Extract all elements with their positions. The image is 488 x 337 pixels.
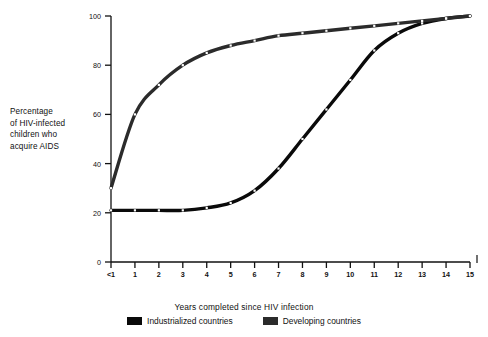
legend-label-developing: Developing countries [283, 316, 361, 326]
chart-page: Percentage of HIV-infected children who … [0, 0, 488, 337]
x-tick-label-10: 10 [340, 270, 360, 279]
x-tick-label-13: 13 [412, 270, 432, 279]
x-tick-marks [111, 262, 470, 268]
legend-swatch-icon-developing [263, 317, 278, 325]
x-tick-label-0: <1 [101, 270, 121, 279]
axis-lines [111, 16, 470, 262]
x-tick-label-7: 7 [269, 270, 289, 279]
x-tick-label-11: 11 [364, 270, 384, 279]
x-tick-label-15: 15 [460, 270, 480, 279]
chart-legend: Industrialized countries Developing coun… [0, 316, 488, 326]
legend-item-developing-countries: Developing countries [263, 316, 361, 326]
series-line-developing-countries [111, 16, 470, 188]
x-tick-label-4: 4 [197, 270, 217, 279]
legend-swatch-icon-industrialized [127, 317, 142, 325]
series-markers-industrialized-countries [110, 15, 471, 212]
x-tick-label-3: 3 [173, 270, 193, 279]
x-tick-label-14: 14 [436, 270, 456, 279]
x-tick-label-9: 9 [316, 270, 336, 279]
series-line-industrialized-countries [111, 16, 470, 211]
x-axis-title: Years completed since HIV infection [0, 302, 488, 312]
legend-label-industrialized: Industrialized countries [147, 316, 233, 326]
plot-canvas [0, 0, 488, 337]
x-tick-label-5: 5 [221, 270, 241, 279]
x-tick-label-2: 2 [149, 270, 169, 279]
legend-item-industrialized-countries: Industrialized countries [127, 316, 233, 326]
x-tick-label-12: 12 [388, 270, 408, 279]
x-tick-label-1: 1 [125, 270, 145, 279]
series-markers-developing-countries [110, 15, 471, 189]
x-tick-label-8: 8 [292, 270, 312, 279]
y-tick-marks [105, 16, 111, 262]
x-tick-label-6: 6 [245, 270, 265, 279]
